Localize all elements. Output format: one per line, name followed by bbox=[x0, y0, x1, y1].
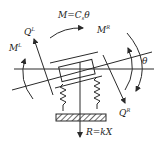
spring-moment-label: M=Csθ bbox=[57, 10, 90, 21]
reaction-label: R=kX bbox=[85, 127, 113, 137]
moment-left-label: ML bbox=[8, 42, 22, 53]
spring-moment-arrow bbox=[50, 28, 83, 38]
right-spring bbox=[94, 77, 100, 109]
diagram-canvas: M=Csθ QL QR ML MR θ R=kX bbox=[0, 0, 164, 152]
beam-block bbox=[59, 59, 96, 81]
moment-right-label: MR bbox=[96, 24, 110, 35]
shear-right-label: QR bbox=[119, 107, 130, 118]
rotation-label: θ bbox=[142, 56, 148, 66]
shear-left-arrow bbox=[34, 39, 53, 95]
shear-left-label: QL bbox=[24, 26, 35, 37]
moment-left-arrow bbox=[23, 59, 33, 99]
ground bbox=[56, 114, 106, 121]
left-spring bbox=[60, 84, 66, 111]
